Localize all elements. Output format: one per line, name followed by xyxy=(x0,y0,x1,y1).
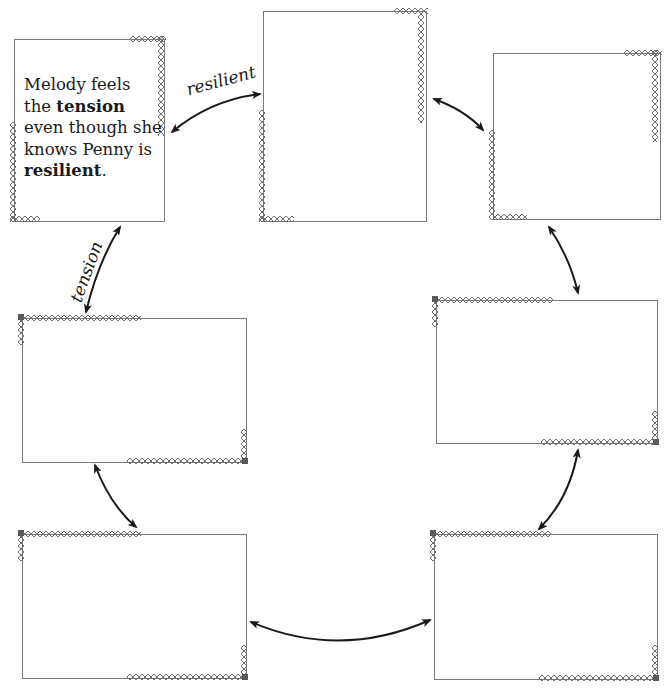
story-box-5[interactable] xyxy=(434,534,658,680)
border-decoration xyxy=(127,674,248,680)
arrow-box3-box4 xyxy=(549,227,578,293)
story-box-3[interactable] xyxy=(493,53,661,220)
keyword-tension: tension xyxy=(56,97,125,116)
border-corner xyxy=(653,439,659,445)
arrow-box5-box7 xyxy=(251,620,430,641)
border-corner xyxy=(430,530,436,536)
arrow-box4-box5 xyxy=(539,450,578,529)
border-decoration xyxy=(489,130,495,220)
border-decoration xyxy=(489,214,527,220)
border-decoration xyxy=(541,439,659,445)
border-corner xyxy=(653,675,659,681)
border-decoration xyxy=(418,8,424,123)
border-corner xyxy=(18,314,24,320)
box-1-text: Melody feels the tension even though she… xyxy=(24,74,162,182)
story-box-4[interactable] xyxy=(436,300,658,444)
border-corner xyxy=(432,296,438,302)
keyword-resilient: resilient xyxy=(24,161,101,180)
story-box-7[interactable] xyxy=(22,534,247,679)
arrow-label-resilient: resilient xyxy=(184,62,258,100)
border-decoration xyxy=(127,458,248,464)
border-decoration xyxy=(433,297,553,303)
border-decoration xyxy=(19,531,141,537)
arrow-box2-box3 xyxy=(434,99,483,130)
story-box-6[interactable] xyxy=(22,318,247,463)
border-decoration xyxy=(10,216,40,222)
border-decoration xyxy=(10,122,16,222)
arrow-box1-box2 xyxy=(172,94,260,132)
border-decoration xyxy=(259,216,294,222)
arrow-label-tension: tension xyxy=(66,239,106,305)
border-corner xyxy=(242,674,248,680)
border-decoration xyxy=(539,675,659,681)
border-decoration xyxy=(259,110,265,222)
story-box-2[interactable] xyxy=(263,11,427,222)
border-decoration xyxy=(19,315,141,321)
border-decoration xyxy=(431,531,551,537)
arrow-box6-box7 xyxy=(95,465,136,527)
story-box-1: Melody feels the tension even though she… xyxy=(14,39,165,222)
border-corner xyxy=(242,458,248,464)
border-decoration xyxy=(652,50,658,142)
border-corner xyxy=(18,530,24,536)
